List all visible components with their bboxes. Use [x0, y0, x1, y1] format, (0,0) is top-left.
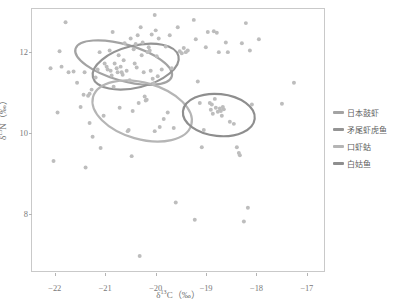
scatter-point — [135, 65, 139, 69]
scatter-point — [129, 36, 133, 40]
scatter-point — [222, 107, 226, 111]
scatter-point — [152, 82, 156, 86]
scatter-point — [158, 125, 162, 129]
scatter-point — [79, 105, 83, 109]
scatter-point — [142, 70, 146, 74]
legend-label: 日本鼓虾 — [347, 107, 379, 118]
scatter-point — [186, 49, 190, 53]
scatter-point — [75, 81, 79, 85]
scatter-point — [98, 50, 102, 54]
scatter-point — [136, 33, 140, 37]
scatter-point — [238, 153, 242, 157]
scatter-point — [113, 61, 117, 65]
scatter-point — [213, 97, 217, 101]
scatter-point — [182, 46, 186, 50]
scatter-point — [99, 146, 103, 150]
legend-swatch-icon — [333, 162, 344, 165]
scatter-point — [111, 30, 115, 34]
scatter-point — [145, 98, 149, 102]
ellipse-0 — [71, 31, 177, 93]
legend-swatch-icon — [333, 111, 344, 114]
scatter-point — [127, 128, 131, 132]
y-tick-mark — [29, 133, 32, 134]
scatter-point — [292, 81, 296, 85]
scatter-point — [242, 219, 246, 223]
legend-swatch-icon — [333, 128, 344, 131]
scatter-point — [130, 154, 134, 158]
scatter-point — [117, 53, 121, 57]
scatter-point — [248, 49, 252, 53]
scatter-point — [149, 69, 153, 73]
x-tick-mark — [55, 273, 56, 276]
legend-label: 白姑鱼 — [347, 158, 371, 169]
scatter-point — [192, 18, 196, 22]
scatter-point — [168, 33, 172, 37]
legend-item-3[interactable]: 白姑鱼 — [333, 155, 395, 172]
scatter-point — [246, 206, 250, 210]
scatter-point — [160, 67, 164, 71]
scatter-point — [174, 200, 178, 204]
scatter-point — [202, 128, 206, 132]
legend-item-1[interactable]: 矛尾虾虎鱼 — [333, 121, 395, 138]
scatter-point — [250, 103, 254, 107]
x-axis-title: δ13C（‰） — [31, 288, 325, 301]
scatter-point — [180, 51, 184, 55]
scatter-point — [132, 47, 136, 51]
scatter-point — [138, 254, 142, 258]
scatter-point — [123, 41, 127, 45]
scatter-point — [240, 41, 244, 45]
chart-figure: −22−21−20−19−18−17 81012 δ13C（‰） δ15N（‰）… — [0, 0, 396, 306]
scatter-point — [176, 25, 180, 29]
scatter-point — [206, 30, 210, 34]
ellipse-layer — [71, 31, 257, 152]
scatter-point — [220, 114, 224, 118]
scatter-point — [170, 66, 174, 70]
scatter-point — [72, 69, 76, 73]
scatter-point — [118, 106, 122, 110]
scatter-point — [88, 121, 92, 125]
scatter-point — [153, 13, 157, 17]
scatter-point — [155, 54, 159, 58]
scatter-point-layer — [49, 13, 296, 258]
scatter-point — [102, 114, 106, 118]
scatter-point — [52, 159, 56, 163]
scatter-point — [83, 70, 87, 74]
legend-item-0[interactable]: 日本鼓虾 — [333, 104, 395, 121]
scatter-point — [280, 102, 284, 106]
scatter-point — [198, 101, 202, 105]
scatter-point — [115, 66, 119, 70]
scatter-point — [125, 69, 129, 73]
scatter-point — [90, 88, 94, 92]
scatter-point — [122, 58, 126, 62]
legend-item-2[interactable]: 口虾蛄 — [333, 138, 395, 155]
scatter-point — [153, 129, 157, 133]
legend-swatch-icon — [333, 145, 344, 148]
scatter-point — [116, 70, 120, 74]
scatter-point — [112, 85, 116, 89]
scatter-point — [228, 120, 232, 124]
scatter-point — [82, 93, 86, 97]
scatter-point — [156, 74, 160, 78]
scatter-point — [150, 32, 154, 36]
scatter-point — [128, 78, 132, 82]
scatter-point — [164, 44, 168, 48]
x-tick-mark — [206, 273, 207, 276]
y-tick-label: 10 — [20, 128, 29, 138]
scatter-point — [226, 50, 230, 54]
y-axis-title: δ15N（‰） — [0, 96, 9, 140]
scatter-point — [204, 45, 208, 49]
scatter-point — [214, 106, 218, 110]
scatter-point — [67, 70, 71, 74]
x-tick-mark — [105, 273, 106, 276]
scatter-point — [154, 28, 158, 32]
x-tick-mark — [256, 273, 257, 276]
legend: 日本鼓虾矛尾虾虎鱼口虾蛄白姑鱼 — [333, 104, 395, 172]
scatter-point — [224, 40, 228, 44]
scatter-point — [141, 40, 145, 44]
scatter-point — [232, 122, 236, 126]
scatter-point — [91, 135, 95, 139]
legend-label: 口虾蛄 — [347, 141, 371, 152]
scatter-point — [210, 103, 214, 107]
scatter-point — [211, 112, 215, 116]
scatter-point — [64, 20, 68, 24]
